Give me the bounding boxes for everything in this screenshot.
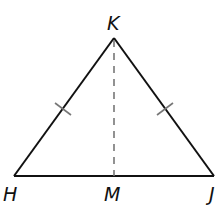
vertex-label-j: J xyxy=(205,183,215,205)
tick-mark-kj xyxy=(157,103,173,115)
triangle-diagram: K H M J xyxy=(0,0,218,207)
tick-mark-hk xyxy=(55,103,71,115)
vertex-label-m: M xyxy=(104,183,120,205)
vertex-label-h: H xyxy=(3,183,17,205)
segment-hk xyxy=(14,38,114,176)
vertex-label-k: K xyxy=(107,12,121,34)
segment-kj xyxy=(114,38,214,176)
